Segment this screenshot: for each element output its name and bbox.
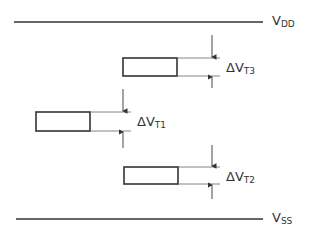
delta-vt3-label: ΔVT3: [226, 61, 255, 76]
vdd-label-sub: DD: [281, 19, 295, 29]
delta-vt1-main: ΔV: [137, 114, 155, 129]
vdd-label-main: V: [272, 13, 281, 28]
block-t3: [123, 58, 177, 76]
block-t2: [124, 167, 178, 184]
delta-vt2-main: ΔV: [226, 169, 244, 184]
vss-label-main: V: [272, 210, 281, 225]
vss-label: VSS: [272, 211, 292, 226]
vss-label-sub: SS: [281, 216, 292, 226]
delta-vt3-main: ΔV: [226, 60, 244, 75]
delta-vt1-sub: T1: [155, 120, 166, 130]
vdd-label: VDD: [272, 14, 295, 29]
delta-vt2-label: ΔVT2: [226, 170, 255, 185]
block-t1: [36, 112, 90, 131]
delta-vt3-sub: T3: [244, 66, 255, 76]
delta-vt1-label: ΔVT1: [137, 115, 166, 130]
delta-vt2-sub: T2: [244, 175, 255, 185]
